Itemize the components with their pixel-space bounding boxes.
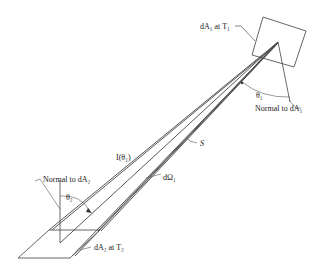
ray-beam xyxy=(49,42,278,256)
label-normal-dA2: Normal to dA₂ xyxy=(43,175,90,184)
label-dOmega1: dΩ₁ xyxy=(163,173,176,182)
label-I-theta1: I(θ₁) xyxy=(116,153,131,162)
surface-dA2 xyxy=(18,230,100,258)
normal-dA1-line xyxy=(278,42,290,102)
label-normal-dA1: Normal to dA₁ xyxy=(255,104,302,113)
label-dA1: dA₁ at T₁ xyxy=(200,22,230,31)
label-S: S xyxy=(200,139,204,148)
label-theta1: θ₁ xyxy=(256,91,263,100)
surface-dA1 xyxy=(252,17,306,67)
label-dA2: dA₂ at T₂ xyxy=(94,243,124,252)
dA1-leader xyxy=(235,26,255,41)
radiation-diagram: dA₁ at T₁ θ₁ Normal to dA₁ S I(θ₁) dΩ₁ N… xyxy=(0,0,329,273)
theta1-arc xyxy=(242,82,290,97)
label-theta2: θ₂ xyxy=(66,193,73,202)
